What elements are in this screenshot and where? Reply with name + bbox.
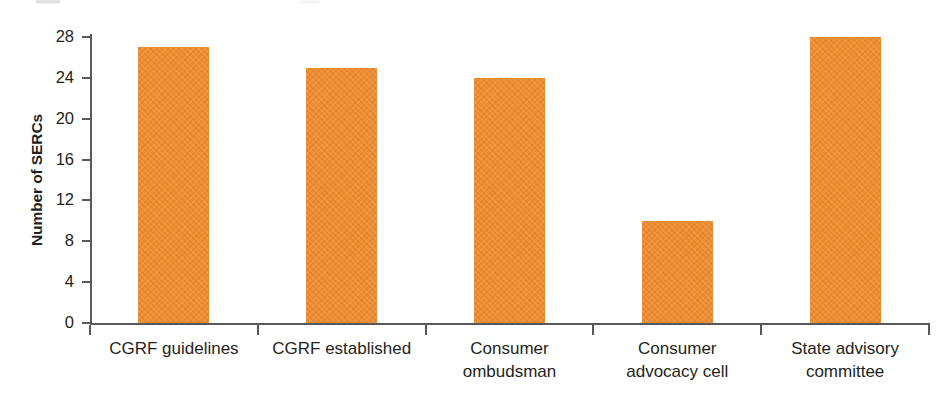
y-axis-tick-label: 0	[34, 314, 74, 331]
category-label-line: committee	[761, 361, 929, 384]
x-axis-tick-mark	[89, 325, 91, 335]
category-label-line: CGRF guidelines	[90, 338, 258, 361]
bar	[306, 68, 377, 323]
y-axis-tick-label: 20	[34, 110, 74, 127]
x-axis-tick-mark	[425, 325, 427, 335]
category-label-line: State advisory	[761, 338, 929, 361]
bar	[138, 47, 209, 323]
category-label-line: CGRF established	[258, 338, 426, 361]
category-label-line: ombudsman	[426, 361, 594, 384]
x-axis-category-label: CGRF guidelines	[90, 338, 258, 361]
category-label-line: advocacy cell	[593, 361, 761, 384]
y-axis-tick-label: 8	[34, 232, 74, 249]
x-axis-tick-mark	[592, 325, 594, 335]
x-axis-category-label: State advisorycommittee	[761, 338, 929, 383]
y-axis-tick-label: 4	[34, 273, 74, 290]
x-axis-line	[90, 323, 930, 325]
plot-area	[90, 37, 929, 323]
x-axis-category-label: CGRF established	[258, 338, 426, 361]
category-label-line: Consumer	[593, 338, 761, 361]
bar	[810, 37, 881, 323]
bar	[642, 221, 713, 323]
y-axis-tick-label: 12	[34, 191, 74, 208]
scan-artifact	[36, 0, 60, 3]
category-label-line: Consumer	[426, 338, 594, 361]
y-axis-tick-label: 24	[34, 69, 74, 86]
x-axis-category-label: Consumeradvocacy cell	[593, 338, 761, 383]
x-axis-tick-mark	[760, 325, 762, 335]
scan-artifact	[300, 1, 320, 3]
bar	[474, 78, 545, 323]
y-axis-tick-label: 28	[34, 28, 74, 45]
x-axis-tick-mark	[257, 325, 259, 335]
bar-chart-figure: Number of SERCs 0481216202428 CGRF guide…	[0, 0, 948, 401]
y-axis-tick-label: 16	[34, 151, 74, 168]
x-axis-category-label: Consumerombudsman	[426, 338, 594, 383]
x-axis-tick-mark	[928, 325, 930, 335]
